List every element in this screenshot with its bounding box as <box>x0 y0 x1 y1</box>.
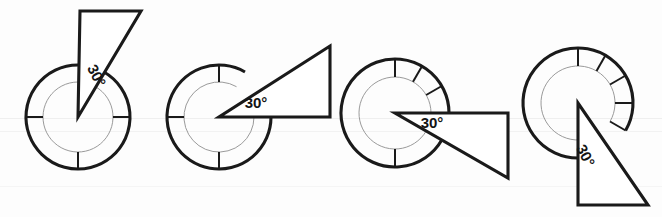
ring-tick-mark <box>426 86 442 95</box>
figure-canvas: 30°30°30°30° <box>0 0 662 217</box>
angle-label: 30° <box>421 114 444 131</box>
angle-label: 30° <box>245 94 268 111</box>
figure-stage-3: 30° <box>341 59 508 178</box>
figure-stage-1: 30° <box>26 11 141 169</box>
rolling-wedge-diagram: 30°30°30°30° <box>0 0 662 217</box>
ring-tick-mark <box>610 76 626 85</box>
figure-stage-4: 30° <box>523 48 648 205</box>
ring-tick-mark <box>597 55 606 71</box>
wedge-triangle <box>395 113 508 178</box>
figure-stage-2: 30° <box>167 46 330 169</box>
wedge-triangle <box>219 46 330 117</box>
ring-tick-mark <box>413 66 422 82</box>
ring-tick-mark <box>610 122 626 131</box>
